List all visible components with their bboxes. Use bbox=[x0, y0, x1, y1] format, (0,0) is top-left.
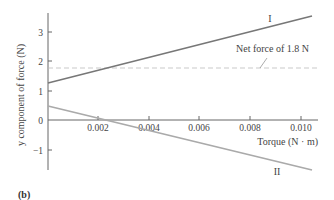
x-axis-title: Torque (N · m) bbox=[257, 136, 318, 148]
svg-text:−1: −1 bbox=[33, 146, 43, 156]
y-ticks bbox=[48, 32, 52, 150]
series-label-II: II bbox=[274, 166, 281, 177]
svg-text:2: 2 bbox=[38, 57, 43, 67]
svg-text:0.006: 0.006 bbox=[188, 123, 210, 133]
svg-text:0.008: 0.008 bbox=[239, 123, 261, 133]
chart: 3 2 1 0 −1 0.002 0.004 0.006 0.008 0.010… bbox=[0, 0, 334, 200]
net-force-leader bbox=[260, 58, 267, 68]
svg-text:0.002: 0.002 bbox=[87, 123, 109, 133]
y-axis-title: y component of force (N) bbox=[15, 44, 27, 146]
panel-label: (b) bbox=[18, 189, 30, 200]
svg-text:0.010: 0.010 bbox=[290, 123, 312, 133]
svg-text:3: 3 bbox=[38, 28, 43, 38]
y-tick-labels: 3 2 1 0 −1 bbox=[33, 28, 43, 156]
net-force-label: Net force of 1.8 N bbox=[236, 43, 309, 54]
x-ticks bbox=[98, 116, 301, 120]
svg-text:0: 0 bbox=[38, 116, 43, 126]
svg-text:1: 1 bbox=[38, 87, 43, 97]
series-label-I: I bbox=[268, 13, 271, 24]
